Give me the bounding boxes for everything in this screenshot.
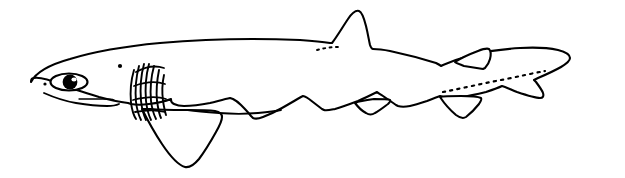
pelvic-fin	[355, 99, 390, 115]
nostril-dot	[43, 82, 46, 85]
body-outline	[31, 11, 570, 119]
spiracle-dot	[118, 64, 122, 68]
body-group	[31, 11, 570, 119]
eye-highlight	[71, 78, 76, 82]
shark-drawing-canvas	[0, 0, 625, 178]
eye-iris	[63, 75, 78, 90]
pectoral-fin	[142, 109, 222, 167]
anal-fin	[440, 96, 481, 118]
shark-illustration	[0, 0, 625, 178]
